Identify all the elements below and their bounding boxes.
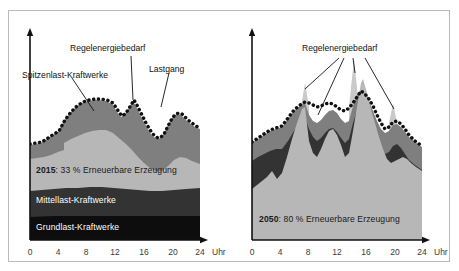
callout-regelenergiebedarf: Regelenergiebedarf	[70, 43, 146, 53]
figure-canvas: Spitzenlast-Kraftwerke Regelenergiebedar…	[0, 0, 459, 271]
band-label-year-2050: 2050	[259, 214, 279, 224]
axis-unit-2050: Uhr	[434, 247, 448, 257]
band-label-grundlast-2015: Grundlast-Kraftwerke	[36, 222, 119, 232]
tick-2015-24: 24	[195, 247, 204, 257]
chart-panel-2015: Spitzenlast-Kraftwerke Regelenergiebedar…	[9, 11, 231, 263]
tick-2015-12: 12	[110, 247, 119, 257]
band-label-erneuerbare-2015: 2015: 33 % Erneuerbare Erzeugung	[36, 165, 177, 175]
band-label-erneuerbare-2050: 2050: 80 % Erneuerbare Erzeugung	[259, 214, 400, 224]
callout-spitzenlast-kraftwerke: Spitzenlast-Kraftwerke	[22, 70, 108, 80]
band-label-year-2015: 2015	[36, 165, 56, 175]
tick-2050-8: 8	[306, 247, 311, 257]
band-label-erneuerbare-text-2050: : 80 % Erneuerbare Erzeugung	[279, 214, 400, 224]
tick-2050-16: 16	[361, 247, 370, 257]
figure-frame: Spitzenlast-Kraftwerke Regelenergiebedar…	[8, 10, 450, 262]
band-label-mittellast-2015: Mittellast-Kraftwerke	[36, 195, 116, 205]
tick-2050-12: 12	[332, 247, 341, 257]
tick-2015-8: 8	[84, 247, 89, 257]
chart-panel-2050: Regelenergiebedarf 2050: 80 % Erneuerbar…	[231, 11, 451, 263]
callout-regelenergiebedarf-2050: Regelenergiebedarf	[302, 43, 378, 53]
tick-2050-0: 0	[250, 247, 255, 257]
tick-2015-0: 0	[28, 247, 33, 257]
tick-2050-24: 24	[417, 247, 426, 257]
tick-2050-20: 20	[390, 247, 399, 257]
axis-unit-2015: Uhr	[212, 247, 226, 257]
stacked-areas-2050	[252, 59, 422, 240]
tick-2015-4: 4	[56, 247, 61, 257]
tick-2050-4: 4	[278, 247, 283, 257]
tick-2015-20: 20	[168, 247, 177, 257]
tick-2015-16: 16	[139, 247, 148, 257]
band-label-erneuerbare-text-2015: : 33 % Erneuerbare Erzeugung	[56, 165, 177, 175]
callout-lastgang: Lastgang	[149, 64, 184, 74]
